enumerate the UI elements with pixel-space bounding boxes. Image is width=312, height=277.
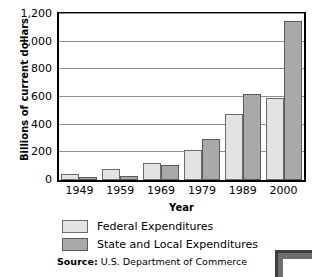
bar-2000-federal: [266, 98, 284, 180]
plot-area: [57, 12, 306, 182]
source-note: Source: U.S. Department of Commerce: [57, 256, 247, 267]
bar-series-container: [59, 14, 304, 180]
y-tick-label: 1,200: [0, 8, 52, 19]
plot-inner: [59, 14, 304, 180]
x-tick-label: 1949: [56, 185, 102, 197]
cropped-corner-artifact: [275, 250, 312, 277]
x-tick-label: 1979: [179, 185, 225, 197]
bar-1959-state-local: [120, 176, 138, 180]
x-tick-label: 1959: [97, 185, 143, 197]
bar-group: [263, 14, 304, 180]
source-label: Source:: [57, 256, 98, 267]
legend-swatch: [62, 238, 88, 251]
y-tick-label: 600: [0, 91, 52, 102]
chart-legend: Federal ExpendituresState and Local Expe…: [62, 218, 306, 254]
bar-1969-federal: [143, 163, 161, 180]
bar-group: [222, 14, 263, 180]
y-tick-label: 1,000: [0, 36, 52, 47]
source-text: U.S. Department of Commerce: [101, 256, 247, 267]
bar-1969-state-local: [161, 165, 179, 180]
bar-1959-federal: [102, 169, 120, 180]
x-axis-tick-labels: 194919591969197919892000: [57, 185, 306, 199]
y-tick-label: 0: [0, 174, 52, 185]
bar-group: [59, 14, 100, 180]
bar-1989-federal: [225, 114, 243, 180]
bar-group: [141, 14, 182, 180]
legend-label: Federal Expenditures: [97, 220, 213, 233]
y-tick-label: 800: [0, 63, 52, 74]
x-axis-title: Year: [57, 202, 306, 213]
x-tick-label: 2000: [261, 185, 307, 197]
y-tick-label: 400: [0, 119, 52, 130]
bar-1949-state-local: [79, 177, 97, 180]
y-axis-tick-labels: 02004006008001,0001,200: [0, 12, 52, 182]
legend-label: State and Local Expenditures: [97, 238, 258, 251]
x-tick-label: 1989: [220, 185, 266, 197]
x-tick-label: 1969: [138, 185, 184, 197]
legend-item: Federal Expenditures: [62, 218, 306, 235]
bar-group: [100, 14, 141, 180]
y-tick-label: 200: [0, 146, 52, 157]
legend-item: State and Local Expenditures: [62, 236, 306, 253]
bar-1979-state-local: [202, 139, 220, 181]
bar-group: [182, 14, 223, 180]
bar-1979-federal: [184, 150, 202, 180]
bar-1989-state-local: [243, 94, 261, 180]
bar-2000-state-local: [284, 21, 302, 180]
cropped-corner-inner: [283, 259, 312, 277]
bar-1949-federal: [61, 174, 79, 180]
legend-swatch: [62, 220, 88, 233]
